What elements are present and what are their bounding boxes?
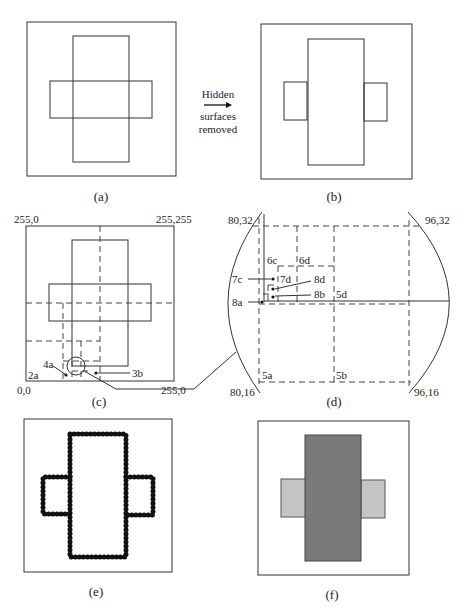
panel-d: 80,32 96,32 6c 6d 7c 7d 8d 8b 8a: [228, 212, 450, 409]
caption-b: (b): [326, 189, 341, 204]
caption-d: (d): [326, 394, 341, 409]
pixel-outline-main: [70, 434, 126, 557]
label-6d: 6d: [299, 254, 311, 266]
corner-label-bottom-right-d: 96,16: [414, 386, 439, 398]
pixel-outline-right: [126, 477, 153, 515]
corner-label-bottom-left-d: 80,16: [230, 386, 255, 398]
caption-a: (a): [94, 189, 108, 204]
viewport-frame-e: [24, 419, 172, 572]
front-rect-f: [305, 435, 361, 561]
corner-label-bottom-left-c: 0,0: [17, 384, 31, 396]
label-6c: 6c: [267, 254, 278, 266]
label-3b: 3b: [132, 367, 144, 379]
back-rect-right-f: [361, 480, 385, 518]
leader-8b: [275, 295, 311, 296]
point-3b: [94, 371, 97, 374]
label-5d: 5d: [336, 288, 348, 300]
arrow-label-bottom-2: removed: [199, 123, 238, 135]
arrow-label-top: Hidden: [202, 88, 235, 100]
pixel-outline-left: [43, 477, 70, 514]
back-rect-right-b: [364, 83, 387, 121]
caption-e: (e): [89, 584, 103, 599]
corner-label-top-right-d: 96,32: [425, 214, 450, 226]
arrow-label-bottom-1: surfaces: [200, 110, 236, 122]
magnifier-leader: [84, 352, 236, 389]
viewport-frame-a: [27, 22, 176, 176]
label-8a: 8a: [232, 296, 243, 308]
caption-f: (f): [326, 587, 339, 602]
pixel-outline: [43, 434, 153, 557]
figure-canvas: (a) Hidden surfaces removed (b) 255,0 25…: [0, 0, 464, 613]
label-4a: 4a: [43, 358, 54, 370]
corner-label-top-left-c: 255,0: [14, 213, 39, 225]
label-8d: 8d: [314, 273, 326, 285]
panel-e: (e): [24, 419, 172, 599]
panel-b: (b): [261, 24, 412, 204]
point-8a: [260, 300, 263, 303]
corner-label-bottom-right-c: 255,0: [161, 384, 186, 396]
panel-a: (a): [27, 22, 176, 204]
label-5a: 5a: [262, 369, 273, 381]
back-rect-left-f: [281, 479, 306, 517]
label-2a: 2a: [28, 369, 39, 381]
hidden-surface-arrow: Hidden surfaces removed: [199, 88, 238, 135]
magnified-view-arc-right: [408, 212, 449, 393]
horizontal-rect-a: [50, 81, 152, 118]
point-7c: [271, 277, 274, 280]
panel-f: (f): [258, 421, 409, 602]
panel-c: 255,0 255,255 4a 3b 2a 0,0 255,0 (c): [14, 213, 236, 409]
label-5b: 5b: [336, 369, 348, 381]
label-8b: 8b: [314, 288, 326, 300]
front-rect-b: [308, 39, 364, 165]
corner-label-top-left-d: 80,32: [228, 214, 253, 226]
back-rect-left-b: [284, 82, 307, 120]
label-7c: 7c: [232, 273, 243, 285]
corner-label-top-right-c: 255,255: [156, 213, 192, 225]
point-8d: [271, 287, 274, 290]
caption-c: (c): [92, 394, 106, 409]
label-7d: 7d: [280, 273, 292, 285]
arrow-head-icon: [226, 102, 232, 108]
point-8b: [271, 295, 274, 298]
vertical-rect-a: [73, 36, 129, 162]
